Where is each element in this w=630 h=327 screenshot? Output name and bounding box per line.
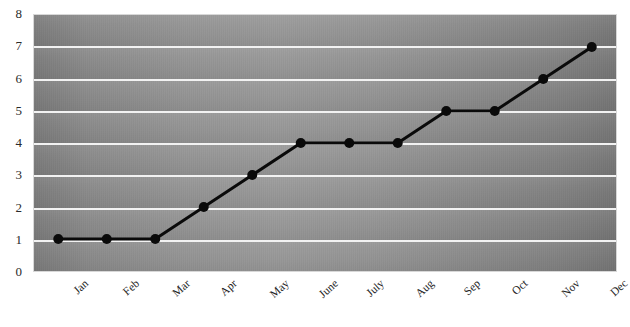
data-point-marker — [296, 138, 306, 148]
data-series-layer — [34, 15, 616, 271]
data-point-marker — [150, 234, 160, 244]
y-axis-tick-label: 7 — [0, 39, 22, 52]
x-axis-tick-label: Apr — [218, 277, 239, 298]
data-point-marker — [490, 106, 500, 116]
x-axis-tick-label: Feb — [120, 277, 141, 297]
data-point-marker — [393, 138, 403, 148]
y-axis-tick-label: 4 — [0, 136, 22, 149]
x-axis-tick-label: July — [364, 277, 386, 299]
y-axis-tick-label: 2 — [0, 201, 22, 214]
data-point-marker — [587, 42, 597, 52]
x-axis-tick-label: Nov — [559, 277, 582, 299]
data-point-marker — [53, 234, 63, 244]
line-chart: 012345678 JanFebMarAprMayJuneJulyAugSepO… — [0, 0, 630, 327]
y-axis-tick-label: 5 — [0, 104, 22, 117]
x-axis-tick-label: Oct — [510, 277, 530, 297]
data-point-marker — [199, 202, 209, 212]
data-point-marker — [344, 138, 354, 148]
series-svg — [34, 15, 616, 271]
x-axis-tick-label: Jan — [71, 277, 90, 296]
series-line — [58, 47, 592, 239]
data-point-marker — [538, 74, 548, 84]
x-axis-tick-label: Mar — [170, 277, 192, 299]
y-axis-tick-label: 1 — [0, 233, 22, 246]
y-axis-tick-label: 0 — [0, 265, 22, 278]
x-axis-tick-label: Aug — [413, 277, 436, 299]
data-point-marker — [441, 106, 451, 116]
x-axis-tick-label: May — [267, 277, 291, 300]
plot-area — [33, 14, 617, 272]
data-point-marker — [102, 234, 112, 244]
x-axis-tick-label: Dec — [607, 277, 629, 298]
y-axis-tick-label: 3 — [0, 168, 22, 181]
x-axis-tick-label: June — [316, 277, 340, 300]
data-point-marker — [247, 170, 257, 180]
y-axis-tick-label: 8 — [0, 7, 22, 20]
y-axis-tick-label: 6 — [0, 72, 22, 85]
x-axis-tick-label: Sep — [461, 277, 482, 297]
